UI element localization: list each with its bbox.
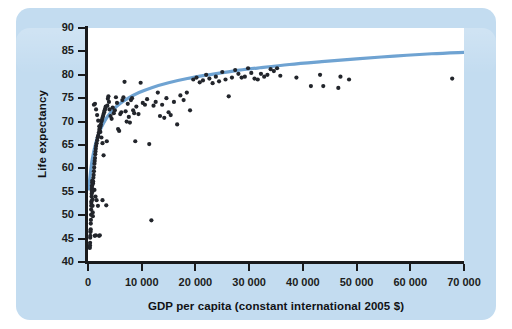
data-point (117, 129, 121, 133)
x-tick-label-text: 40 000 (286, 276, 320, 288)
data-point (162, 116, 166, 120)
data-point (104, 203, 108, 207)
data-point (114, 95, 118, 99)
y-tick (78, 167, 85, 169)
data-point (294, 76, 298, 80)
x-tick-label-text: 50 000 (340, 276, 374, 288)
data-point (259, 72, 263, 76)
data-point (96, 119, 100, 123)
data-point (91, 210, 95, 214)
data-point (318, 73, 322, 77)
data-point (92, 165, 96, 169)
data-point (105, 139, 109, 143)
data-point (265, 73, 269, 77)
y-tick-label-text: 55 (44, 186, 74, 197)
y-tick-label: 60 (44, 162, 74, 174)
data-point (220, 70, 224, 74)
x-tick-label-text: 70 000 (447, 276, 481, 288)
data-point (88, 241, 92, 245)
data-point (172, 100, 176, 104)
data-point (201, 78, 205, 82)
y-tick (78, 27, 85, 29)
data-point (115, 101, 119, 105)
plot-area (88, 28, 464, 262)
data-point (321, 84, 325, 88)
data-point (100, 198, 104, 202)
data-point (143, 103, 147, 107)
data-point (121, 95, 125, 99)
data-point (182, 98, 186, 102)
y-tick (78, 261, 85, 263)
y-tick (78, 97, 85, 99)
x-tick (87, 264, 89, 271)
data-point (243, 75, 247, 79)
y-axis-title: Life expectancy (36, 64, 48, 204)
data-point (223, 77, 227, 81)
data-point-group (88, 66, 454, 250)
chart-screenshot: Life expectancy GDP per capita (constant… (0, 0, 512, 329)
data-point (106, 94, 110, 98)
y-tick (78, 191, 85, 193)
data-point (89, 218, 93, 222)
data-point (217, 79, 221, 83)
x-tick (356, 264, 358, 271)
x-tick-label-text: 30 000 (232, 276, 266, 288)
data-point (93, 102, 97, 106)
y-tick-label-text: 60 (44, 162, 74, 173)
data-point (164, 96, 168, 100)
scatter-plot-canvas (88, 28, 464, 262)
y-tick (78, 144, 85, 146)
data-point (101, 153, 105, 157)
data-point (147, 142, 151, 146)
data-point (194, 76, 198, 80)
x-tick (194, 264, 196, 271)
data-point (93, 194, 97, 198)
data-point (175, 122, 179, 126)
data-point (99, 135, 103, 139)
y-tick (78, 214, 85, 216)
y-tick-label: 55 (44, 186, 74, 198)
data-point (246, 66, 250, 70)
y-tick (78, 50, 85, 52)
data-point (130, 96, 134, 100)
data-point (204, 73, 208, 77)
data-point (154, 100, 158, 104)
y-tick-label: 45 (44, 233, 74, 245)
data-point (92, 173, 96, 177)
data-point (91, 204, 95, 208)
y-tick-label: 70 (44, 116, 74, 128)
data-point (128, 120, 132, 124)
data-point (119, 110, 123, 114)
y-tick-label: 75 (44, 92, 74, 104)
data-point (214, 75, 218, 79)
data-point (110, 117, 114, 121)
data-point (275, 66, 279, 70)
x-axis-title: GDP per capita (constant international 2… (76, 300, 476, 312)
data-point (450, 76, 454, 80)
data-point (151, 104, 155, 108)
x-tick (302, 264, 304, 271)
y-tick-label-text: 45 (44, 233, 74, 244)
data-point (134, 105, 138, 109)
data-point (145, 97, 149, 101)
data-point (95, 113, 99, 117)
data-point (126, 102, 130, 106)
y-tick-label-text: 65 (44, 139, 74, 150)
x-tick-label-text: 10 000 (125, 276, 159, 288)
data-point (249, 71, 253, 75)
trend-line (89, 52, 464, 189)
x-tick-label-text: 0 (85, 276, 91, 288)
data-point (338, 75, 342, 79)
data-point (188, 108, 192, 112)
data-point (98, 233, 102, 237)
data-point (93, 156, 97, 160)
data-point (207, 76, 211, 80)
y-tick-label-text: 80 (44, 69, 74, 80)
data-point (149, 218, 153, 222)
data-point (236, 72, 240, 76)
y-tick-label-text: 50 (44, 209, 74, 220)
data-point (309, 84, 313, 88)
y-tick (78, 74, 85, 76)
data-point (98, 130, 102, 134)
y-tick-label-text: 90 (44, 22, 74, 33)
